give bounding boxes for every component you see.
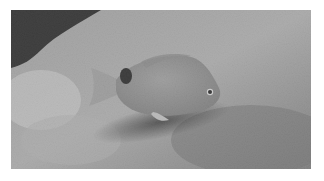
fish-photograph	[11, 10, 311, 169]
photo-canvas	[11, 10, 311, 169]
